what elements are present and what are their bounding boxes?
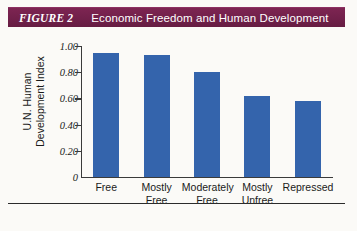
bar (244, 96, 270, 177)
figure-title: Economic Freedom and Human Development (91, 12, 328, 24)
y-axis-title-line-1: U.N. Human (21, 37, 34, 167)
x-axis-category-label: Free (81, 181, 131, 194)
x-axis-category-label: Repressed (283, 181, 333, 194)
bar (295, 101, 321, 177)
x-axis-category-label-line: Mostly (131, 181, 181, 194)
bar (194, 72, 220, 177)
figure-bottom-rule (8, 203, 345, 204)
figure-header-bar: FIGURE 2 Economic Freedom and Human Deve… (8, 7, 345, 27)
y-axis-title: U.N. Human Development Index (21, 37, 46, 167)
chart-plot-area: U.N. Human Development Index 1.000.800.6… (0, 33, 357, 213)
figure-container: FIGURE 2 Economic Freedom and Human Deve… (0, 0, 357, 231)
figure-number-label: FIGURE 2 (19, 12, 73, 24)
bar (93, 53, 119, 177)
bar (144, 55, 170, 177)
bar-series (81, 46, 333, 177)
x-axis-category-label-line: Mostly (232, 181, 282, 194)
x-axis-category-labels: FreeMostlyFreeModeratelyFreeMostlyUnfree… (81, 181, 333, 213)
x-axis-category-label-line: Free (81, 181, 131, 194)
x-axis-category-label-line: Moderately (182, 181, 232, 194)
x-axis-category-label-line: Repressed (283, 181, 333, 194)
y-axis-tick-labels: 1.000.800.600.400.200 (44, 33, 78, 183)
y-axis-tick-label: 0 (73, 172, 78, 183)
